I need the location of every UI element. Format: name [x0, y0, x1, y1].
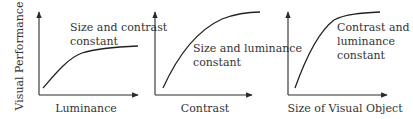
panel-size: Contrast and luminance constant Size of …: [287, 12, 409, 115]
annotation-line1: Size and luminance: [193, 42, 302, 55]
panel-luminance: Visual Performance Size and contrast con…: [13, 2, 168, 115]
panel-contrast: Size and luminance constant Contrast: [155, 12, 302, 115]
figure: Visual Performance Size and contrast con…: [0, 0, 413, 119]
annotation-line2: luminance: [337, 35, 395, 48]
annotation-line2: constant: [70, 35, 119, 48]
x-axis-label: Luminance: [55, 102, 117, 115]
y-axis-label: Visual Performance: [13, 2, 26, 112]
x-axis-label: Contrast: [181, 102, 230, 115]
annotation-line1: Contrast and: [337, 21, 410, 34]
annotation-line3: constant: [337, 49, 386, 62]
x-axis-label: Size of Visual Object: [287, 102, 403, 115]
annotation-line2: constant: [193, 56, 242, 69]
performance-curve: [43, 46, 138, 88]
annotation-line1: Size and contrast: [70, 21, 168, 34]
